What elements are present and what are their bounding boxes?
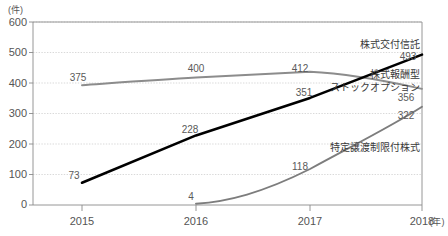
value-label-trust-2018: 493 [400,51,417,62]
value-label-restricted-2017: 118 [292,161,308,172]
y-tick-label-200: 200 [9,138,27,150]
value-label-stockoption-2016: 400 [188,63,205,74]
series-label-share-delivery-trust: 株式交付信託 [360,38,420,50]
x-axis-ticks [82,205,422,211]
value-label-trust-2017: 351 [296,87,313,98]
y-tick-label-100: 100 [9,168,27,180]
series-label-restricted-stock: 特定譲渡制限付株式 [330,141,420,153]
value-label-restricted-2016: 4 [188,191,194,202]
y-tick-label-600: 600 [9,16,27,28]
value-label-stockoption-2015: 375 [70,72,87,83]
y-tick-label-400: 400 [9,77,27,89]
value-label-trust-2016: 228 [182,124,199,135]
y-tick-label-500: 500 [9,46,27,58]
value-label-stockoption-2018: 356 [398,92,415,103]
y-axis-unit-label: (件) [8,4,23,15]
series-label-stock-option-line2: ストックオプション [330,82,420,93]
y-axis-ticks [29,22,33,205]
value-label-trust-2015: 73 [68,170,80,181]
x-axis-unit-label: (年) [430,216,445,227]
series-label-stock-option-line1: 株式報酬型 [370,68,420,80]
value-label-stockoption-2017: 412 [292,63,309,74]
x-tick-label-2017: 2017 [298,215,322,227]
line-chart-figure: (件) 0 100 200 300 400 500 600 2015 2016 … [0,0,448,236]
y-tick-label-300: 300 [9,107,27,119]
value-label-restricted-2018: 322 [398,110,415,121]
x-tick-label-2015: 2015 [70,215,94,227]
x-tick-label-2016: 2016 [184,215,208,227]
y-tick-label-0: 0 [21,198,27,210]
series-line-restricted-stock [196,107,422,204]
chart-canvas: (件) 0 100 200 300 400 500 600 2015 2016 … [0,0,448,236]
